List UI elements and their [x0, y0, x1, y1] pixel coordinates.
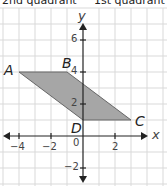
y-tick-neg2: −2	[64, 161, 79, 172]
y-tick-4: 4	[71, 65, 77, 76]
vertex-label-b: B	[62, 55, 72, 71]
x-tick-neg4: −4	[10, 141, 25, 152]
x-tick-0: 0	[73, 137, 79, 148]
y-tick-6: 6	[71, 33, 77, 44]
y-tick-2: 2	[71, 97, 77, 108]
x-tick-neg2: −2	[42, 141, 57, 152]
x-tick-2: 2	[112, 141, 118, 152]
vertex-label-c: C	[135, 113, 145, 129]
y-axis-label: y	[78, 8, 86, 23]
vertex-label-a: A	[4, 62, 14, 78]
x-axis-label: x	[152, 127, 160, 142]
vertex-label-d: D	[71, 120, 82, 136]
